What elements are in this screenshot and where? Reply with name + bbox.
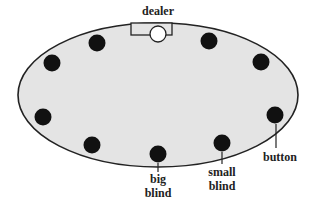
- seat-button: [267, 107, 284, 124]
- seat-1: [89, 35, 106, 52]
- big-blind-label: big blind: [133, 172, 183, 200]
- seat-4: [84, 137, 101, 154]
- dealer-label: dealer: [128, 4, 188, 18]
- small-blind-label-line2: blind: [197, 179, 247, 193]
- seat-3: [35, 109, 52, 126]
- seat-9: [201, 33, 218, 50]
- seat-big-blind: [150, 146, 167, 163]
- seat-8: [253, 54, 270, 71]
- seat-2: [44, 55, 61, 72]
- big-blind-label-line2: blind: [133, 186, 183, 200]
- button-label: button: [255, 150, 305, 164]
- poker-table: [18, 23, 298, 167]
- small-blind-label: small blind: [197, 165, 247, 193]
- small-blind-label-line1: small: [197, 165, 247, 179]
- seat-small-blind: [214, 135, 231, 152]
- big-blind-label-line1: big: [133, 172, 183, 186]
- dealer-button-icon: [150, 26, 166, 42]
